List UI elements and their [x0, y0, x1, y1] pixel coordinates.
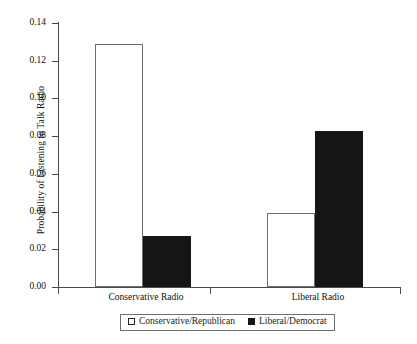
bar-conservative-republican — [95, 44, 143, 287]
plot-area — [58, 23, 400, 287]
x-tick-mark — [58, 288, 59, 294]
y-axis-label: Probability of Listening to Talk Radio — [36, 45, 46, 275]
y-tick-label: 0.08 — [0, 130, 46, 140]
y-tick-label: 0.04 — [0, 206, 46, 216]
y-tick-label: 0.06 — [0, 168, 46, 178]
y-tick-label: 0.14 — [0, 17, 46, 27]
y-tick-label: 0.00 — [0, 281, 46, 291]
bar-chart: Probability of Listening to Talk Radio 0… — [0, 0, 417, 344]
x-axis-line — [58, 287, 401, 288]
bar-liberal-democrat — [315, 131, 363, 288]
legend-label: Liberal/Democrat — [259, 317, 327, 327]
x-category-label: Liberal Radio — [238, 292, 398, 302]
y-tick-label: 0.10 — [0, 92, 46, 102]
bar-liberal-democrat — [143, 236, 191, 287]
legend-label: Conservative/Republican — [139, 317, 235, 327]
filled-square-icon — [248, 318, 255, 325]
x-tick-mark — [400, 288, 401, 294]
bar-conservative-republican — [267, 213, 315, 287]
legend-item-conservative-republican: Conservative/Republican — [128, 317, 235, 327]
legend-item-liberal-democrat: Liberal/Democrat — [248, 317, 327, 327]
hollow-square-icon — [128, 318, 135, 325]
y-tick-label: 0.02 — [0, 243, 46, 253]
y-tick-label: 0.12 — [0, 55, 46, 65]
chart-legend: Conservative/Republican Liberal/Democrat — [120, 314, 335, 331]
x-category-label: Conservative Radio — [66, 292, 226, 302]
